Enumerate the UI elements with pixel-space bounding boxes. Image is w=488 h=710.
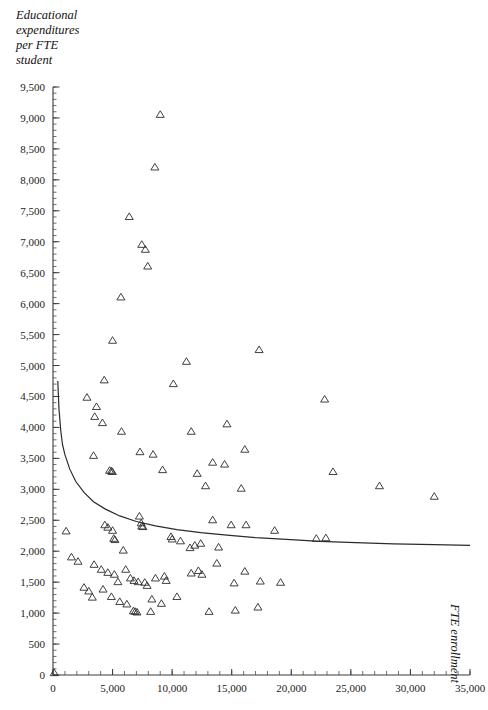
- data-point-marker: [125, 213, 133, 220]
- data-point-marker: [312, 535, 320, 542]
- y-tick-label: 8,000: [20, 174, 45, 186]
- x-tick-label: 5,000: [100, 682, 125, 694]
- data-point-marker: [255, 346, 263, 353]
- y-tick-label: 5,500: [20, 329, 45, 341]
- data-point-marker: [231, 607, 239, 614]
- data-point-marker: [147, 608, 155, 615]
- data-point-marker: [136, 448, 144, 455]
- data-point-marker: [242, 521, 250, 528]
- fit-curve: [58, 381, 470, 545]
- data-point-marker: [430, 493, 438, 500]
- data-point-marker: [100, 376, 108, 383]
- data-point-marker: [202, 482, 210, 489]
- data-point-marker: [123, 600, 131, 607]
- y-tick-label: 7,000: [20, 236, 45, 248]
- x-tick-label: 35,000: [455, 682, 486, 694]
- x-tick-label: 10,000: [157, 682, 188, 694]
- data-point-marker: [83, 394, 91, 401]
- data-point-marker: [156, 111, 164, 118]
- scatter-chart: Educational expenditures per FTE student…: [0, 0, 488, 710]
- data-point-marker: [74, 558, 82, 565]
- data-point-marker: [118, 428, 126, 435]
- y-tick-label: 500: [29, 638, 46, 650]
- data-point-marker: [209, 459, 217, 466]
- x-axis: 05,00010,00015,00020,00025,00030,00035,0…: [50, 669, 485, 694]
- data-point-marker: [182, 358, 190, 365]
- y-tick-label: 2,500: [20, 514, 45, 526]
- data-point-marker: [187, 428, 195, 435]
- data-point-marker: [116, 598, 124, 605]
- data-point-marker: [67, 553, 75, 560]
- x-tick-label: 30,000: [395, 682, 426, 694]
- y-tick-label: 2,000: [20, 545, 45, 557]
- data-point-marker: [91, 413, 99, 420]
- data-point-marker: [205, 608, 213, 615]
- y-tick-label: 1,000: [20, 607, 45, 619]
- y-tick-label: 6,500: [20, 267, 45, 279]
- data-point-marker: [135, 512, 143, 519]
- data-point-marker: [241, 446, 249, 453]
- data-point-marker: [114, 578, 122, 585]
- data-point-marker: [221, 460, 229, 467]
- y-tick-label: 3,500: [20, 452, 45, 464]
- data-point-marker: [162, 577, 170, 584]
- data-point-marker: [149, 451, 157, 458]
- x-tick-label: 15,000: [217, 682, 248, 694]
- y-tick-label: 4,000: [20, 421, 45, 433]
- data-point-marker: [90, 452, 98, 459]
- y-tick-label: 4,500: [20, 390, 45, 402]
- x-tick-label: 25,000: [336, 682, 367, 694]
- data-point-marker: [213, 559, 221, 566]
- data-point-marker: [227, 521, 235, 528]
- data-point-marker: [223, 420, 231, 427]
- plot-area: 05001,0001,5002,0002,5003,0003,5004,0004…: [0, 0, 488, 710]
- data-point-marker: [62, 527, 70, 534]
- y-tick-label: 6,000: [20, 298, 45, 310]
- data-point-marker: [375, 482, 383, 489]
- data-point-marker: [277, 579, 285, 586]
- data-point-marker: [80, 584, 88, 591]
- data-point-marker: [176, 537, 184, 544]
- data-point-marker: [144, 262, 152, 269]
- data-point-marker: [193, 470, 201, 477]
- data-point-marker: [122, 566, 130, 573]
- data-point-marker: [117, 293, 125, 300]
- data-point-marker: [92, 403, 100, 410]
- data-point-marker: [254, 603, 262, 610]
- y-tick-label: 0: [40, 669, 46, 681]
- data-point-marker: [157, 600, 165, 607]
- data-point-marker: [119, 546, 127, 553]
- data-point-marker: [98, 419, 106, 426]
- data-point-marker: [169, 380, 177, 387]
- data-point-marker: [256, 577, 264, 584]
- x-tick-label: 20,000: [276, 682, 307, 694]
- y-tick-label: 1,500: [20, 576, 45, 588]
- data-point-marker: [151, 574, 159, 581]
- data-point-marker: [322, 534, 330, 541]
- data-point-marker: [197, 540, 205, 547]
- data-point-marker: [97, 566, 105, 573]
- data-point-marker: [329, 468, 337, 475]
- data-point-marker: [321, 395, 329, 402]
- y-tick-label: 5,000: [20, 360, 45, 372]
- y-axis: 05001,0001,5002,0002,5003,0003,5004,0004…: [20, 81, 59, 681]
- y-tick-label: 7,500: [20, 205, 45, 217]
- data-point-marker: [99, 585, 107, 592]
- data-point-marker: [187, 569, 195, 576]
- data-point-marker: [241, 568, 249, 575]
- data-point-marker: [88, 594, 96, 601]
- data-point-marker: [159, 466, 167, 473]
- data-point-marker: [209, 516, 217, 523]
- data-point-marker: [107, 593, 115, 600]
- data-point-marker: [110, 571, 118, 578]
- data-point-marker: [151, 163, 159, 170]
- data-point-marker: [148, 595, 156, 602]
- data-point-marker: [271, 527, 279, 534]
- y-tick-label: 9,500: [20, 81, 45, 93]
- data-point-marker: [215, 543, 223, 550]
- data-point-marker: [109, 337, 117, 344]
- y-tick-label: 9,000: [20, 112, 45, 124]
- data-point-marker: [237, 485, 245, 492]
- y-tick-label: 3,000: [20, 483, 45, 495]
- data-point-marker: [230, 579, 238, 586]
